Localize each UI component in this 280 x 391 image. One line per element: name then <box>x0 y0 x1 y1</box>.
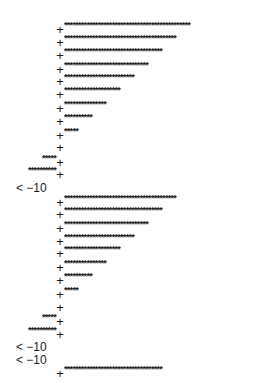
positive-bar: **************************************** <box>64 33 176 43</box>
positive-bar: ***** <box>64 126 78 136</box>
axis-tick-plus: + <box>56 247 64 260</box>
axis-tick-plus: + <box>56 88 64 101</box>
histogram-row: +***** <box>0 288 280 301</box>
positive-bar: *************** <box>64 258 106 268</box>
axis-tick-plus: + <box>56 301 64 314</box>
histogram-row: +******************** <box>0 88 280 101</box>
negative-bar: ********** <box>28 325 56 335</box>
positive-bar: ********** <box>64 271 92 281</box>
positive-bar: ******************** <box>64 85 120 95</box>
negative-bar: ***** <box>42 153 56 163</box>
histogram-row: +********** <box>0 115 280 128</box>
histogram-row: +*************** <box>0 261 280 274</box>
axis-tick-plus: + <box>56 168 64 181</box>
positive-bar: **************************************** <box>64 193 176 203</box>
positive-bar: *********************************** <box>64 46 162 56</box>
negative-bar: ********** <box>28 165 56 175</box>
histogram-row: +************************* <box>0 75 280 88</box>
underflow-label: < −10 <box>16 182 47 195</box>
histogram-row: +*************** <box>0 102 280 115</box>
positive-bar: ************************* <box>64 72 134 82</box>
positive-bar: ********** <box>64 112 92 122</box>
ascii-histogram-chart: +***************************************… <box>0 0 280 391</box>
positive-bar: ******************** <box>64 244 120 254</box>
histogram-row: +****************************** <box>0 222 280 235</box>
histogram-row: +********** <box>0 168 280 181</box>
axis-tick-plus: + <box>56 328 64 341</box>
positive-bar: *********************************** <box>64 364 162 374</box>
axis-tick-plus: + <box>56 115 64 128</box>
positive-bar: *********************************** <box>64 205 162 215</box>
underflow-label: < −10 <box>16 354 47 367</box>
positive-bar: ****************************** <box>64 219 148 229</box>
positive-bar: ***** <box>64 285 78 295</box>
negative-bar: ***** <box>42 312 56 322</box>
positive-bar: *************** <box>64 99 106 109</box>
positive-bar: ****************************************… <box>64 20 190 30</box>
histogram-row: +*********************************** <box>0 367 280 380</box>
positive-bar: ****************************** <box>64 60 148 70</box>
axis-tick-plus: + <box>56 208 64 221</box>
positive-bar: ************************* <box>64 232 134 242</box>
axis-tick-plus: + <box>56 141 64 154</box>
histogram-row: +********** <box>0 274 280 287</box>
axis-tick-plus: + <box>56 367 64 380</box>
histogram-row: +******************** <box>0 247 280 260</box>
axis-tick-plus: + <box>56 49 64 62</box>
axis-tick-plus: + <box>56 274 64 287</box>
